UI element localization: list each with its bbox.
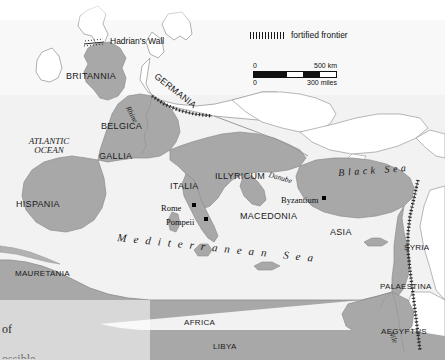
scale-miles-max: 300 miles (307, 79, 337, 86)
province-label-illyricum: ILLYRICUM (215, 172, 265, 181)
city-label-pompeii: Pompeii (166, 218, 194, 227)
city-dot-byzantium (322, 196, 326, 200)
sea-label-mediterranean: Mediterranean Sea (117, 232, 321, 264)
province-label-syria: SYRIA (404, 244, 430, 252)
scale-km-numbers: 0 500 km (253, 62, 337, 71)
body-text-clipped-line: ossible (2, 352, 35, 359)
scale-segment-2 (303, 72, 319, 77)
province-label-hispania: HISPANIA (16, 200, 60, 209)
city-dot-pompeii (204, 217, 208, 221)
scale-segment-1 (254, 72, 287, 77)
body-text-fragment: of (2, 322, 12, 337)
scale-km-zero: 0 (253, 62, 257, 69)
province-label-belgica: BELGICA (101, 122, 142, 131)
scale-bar: 0 500 km 0 300 miles (253, 62, 337, 88)
legend-row-fortified-frontier: fortified frontier (250, 30, 348, 40)
river-label-danube: Danube (268, 171, 293, 185)
province-label-palaestina: PALAESTINA (380, 283, 432, 291)
province-label-germania: GERMANIA (152, 72, 197, 110)
fortified-frontier-icon (250, 32, 284, 39)
map-figure: Hadrian's Wall BRITANNIA GERMANIA BELGIC… (0, 0, 445, 360)
province-label-asia: ASIA (330, 228, 352, 237)
province-label-mauretania: MAURETANIA (15, 270, 70, 278)
ocean-label-atlantic: ATLANTIC OCEAN (12, 137, 86, 155)
feature-label-hadrians-wall: Hadrian's Wall (110, 37, 164, 46)
map-label-layer: Hadrian's Wall BRITANNIA GERMANIA BELGIC… (0, 0, 445, 360)
ocean-label-line-2: OCEAN (12, 146, 86, 155)
scale-km-max: 500 km (314, 62, 337, 69)
province-label-libya: LIBYA (213, 343, 237, 351)
sea-label-black-sea: Black Sea (338, 163, 410, 178)
scale-miles-numbers: 0 300 miles (253, 79, 337, 88)
province-label-italia: ITALIA (170, 182, 199, 191)
province-label-gallia: GALLIA (99, 152, 132, 161)
city-dot-rome (192, 203, 196, 207)
province-label-africa: AFRICA (184, 319, 215, 327)
legend-label-fortified-frontier: fortified frontier (291, 30, 348, 40)
scale-bar-graphic (253, 71, 337, 78)
scale-miles-zero: 0 (253, 79, 257, 86)
province-label-britannia: BRITANNIA (66, 72, 116, 81)
city-label-byzantium: Byzantium (281, 196, 318, 205)
province-label-macedonia: MACEDONIA (240, 212, 297, 221)
legend: fortified frontier (250, 30, 348, 40)
city-label-rome: Rome (161, 204, 181, 213)
